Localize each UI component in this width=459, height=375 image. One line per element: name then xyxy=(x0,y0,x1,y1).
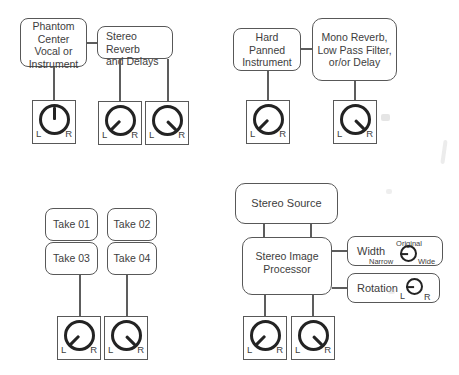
box-text: Stereo Reverb xyxy=(106,30,172,55)
width-control: Width Original Narrow Wide xyxy=(347,236,443,266)
connector-line xyxy=(301,48,312,50)
knob-r-label: R xyxy=(65,128,72,139)
stereo-source-box: Stereo Source xyxy=(235,183,338,224)
pan-knob-phantom: L R xyxy=(32,100,76,144)
hard-panned-box: Hard Panned Instrument xyxy=(233,28,301,71)
pan-knob-processor-left: L R xyxy=(243,316,287,360)
box-text: Take 04 xyxy=(114,252,151,265)
knob-r-label: R xyxy=(366,128,373,139)
pan-knob-reverb-right: L R xyxy=(145,101,189,145)
box-text: or/or Delay xyxy=(313,56,396,69)
phantom-center-box: Phantom Center Vocal or Instrument xyxy=(20,18,87,67)
audio-panning-diagram: Phantom Center Vocal or Instrument Stere… xyxy=(0,0,459,375)
box-text: Hard xyxy=(234,31,300,44)
connector-line xyxy=(119,59,121,101)
box-text: Take 01 xyxy=(53,218,90,231)
connector-line xyxy=(312,295,314,316)
scan-noise xyxy=(388,289,395,294)
stereo-image-processor-box: Stereo Image Processor xyxy=(242,237,332,295)
pan-knob-processor-right: L R xyxy=(291,316,335,360)
box-text: Panned xyxy=(234,44,300,57)
box-text: Stereo Image xyxy=(243,250,331,263)
mono-reverb-box: Mono Reverb, Low Pass Filter, or/or Dela… xyxy=(312,18,397,81)
rotation-l-label: L xyxy=(400,290,405,303)
knob-r-label: R xyxy=(276,344,283,355)
box-text: Phantom xyxy=(21,20,86,33)
connector-line xyxy=(263,224,265,237)
width-narrow-label: Narrow xyxy=(369,256,393,269)
knob-r-label: R xyxy=(279,128,286,139)
connector-line xyxy=(79,275,81,316)
take-01-box: Take 01 xyxy=(45,208,98,241)
box-text: Processor xyxy=(243,263,331,276)
connector-line xyxy=(310,224,312,237)
width-wide-label: Wide xyxy=(418,256,435,269)
take-04-box: Take 04 xyxy=(107,242,157,275)
rotation-knob-pointer-icon xyxy=(406,285,414,287)
knob-pointer-icon xyxy=(53,107,56,120)
pan-knob-mono-effect: L R xyxy=(333,100,377,144)
knob-l-label: L xyxy=(247,344,252,355)
box-text: Take 02 xyxy=(114,218,151,231)
box-text: Mono Reverb, xyxy=(313,31,396,44)
stereo-reverb-box: Stereo Reverb and Delays xyxy=(97,26,173,59)
rotation-r-label: R xyxy=(424,291,431,304)
connector-line xyxy=(332,287,347,289)
scan-noise xyxy=(386,189,392,194)
knob-l-label: L xyxy=(61,344,66,355)
knob-l-label: L xyxy=(295,344,300,355)
scan-noise xyxy=(381,114,390,121)
box-text: Low Pass Filter, xyxy=(313,44,396,57)
connector-line xyxy=(267,71,269,100)
box-text: Take 03 xyxy=(53,252,90,265)
pan-knob-takes-right: L R xyxy=(104,316,148,360)
connector-line xyxy=(354,81,356,100)
width-knob-pointer-icon xyxy=(400,252,408,254)
pan-knob-hard-panned: L R xyxy=(246,100,290,144)
take-02-box: Take 02 xyxy=(107,208,157,241)
take-03-box: Take 03 xyxy=(45,242,98,275)
connector-line xyxy=(332,250,347,252)
box-text: Vocal or xyxy=(21,45,86,58)
knob-r-label: R xyxy=(178,129,185,140)
knob-r-label: R xyxy=(131,129,138,140)
knob-l-label: L xyxy=(36,128,41,139)
connector-line xyxy=(126,275,128,316)
connector-line xyxy=(264,295,266,316)
scan-noise xyxy=(440,140,447,164)
knob-l-label: L xyxy=(149,129,154,140)
knob-l-label: L xyxy=(102,129,107,140)
connector-line xyxy=(167,59,169,101)
knob-l-label: L xyxy=(337,128,342,139)
box-text: and Delays xyxy=(106,55,172,68)
knob-r-label: R xyxy=(324,344,331,355)
box-text: Stereo Source xyxy=(251,197,321,210)
box-text: Center xyxy=(21,33,86,46)
knob-r-label: R xyxy=(90,344,97,355)
pan-knob-reverb-left: L R xyxy=(98,101,142,145)
connector-line xyxy=(53,67,55,100)
connector-line xyxy=(87,42,97,44)
knob-l-label: L xyxy=(250,128,255,139)
knob-r-label: R xyxy=(137,344,144,355)
box-text: Instrument xyxy=(234,56,300,69)
pan-knob-takes-left: L R xyxy=(57,316,101,360)
rotation-control: Rotation L R xyxy=(347,273,440,303)
knob-l-label: L xyxy=(108,344,113,355)
